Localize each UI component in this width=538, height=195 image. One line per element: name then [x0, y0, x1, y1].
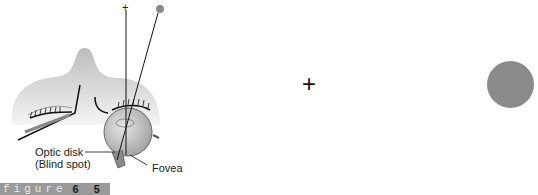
figure-caption-bar: figure 6 5 [0, 183, 110, 195]
optic-disk-label-line2: (Blind spot) [35, 158, 91, 170]
blind-spot-dot-target [487, 61, 534, 108]
face-illustration: + [0, 0, 200, 180]
fovea-label: Fovea [152, 162, 183, 174]
svg-text:+: + [122, 1, 128, 13]
figure-word: figure [0, 183, 67, 195]
eye-diagram: + [0, 0, 200, 180]
optic-disk-label-line1: Optic disk [35, 146, 91, 158]
optic-disk-label: Optic disk (Blind spot) [35, 146, 91, 170]
figure-number: 6 5 [73, 183, 106, 195]
fixation-plus-target: + [302, 72, 316, 96]
